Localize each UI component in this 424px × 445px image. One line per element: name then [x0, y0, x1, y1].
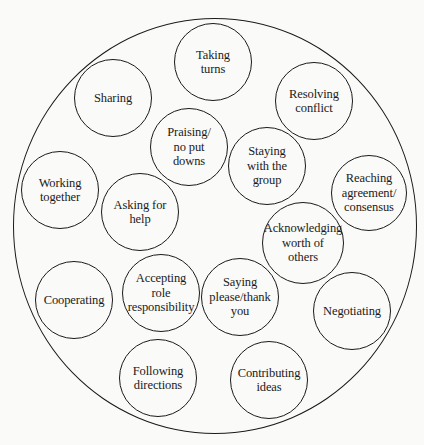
bubble-label: Cooperating — [44, 293, 105, 308]
bubble-label: Following directions — [133, 364, 184, 393]
bubble-following-directions: Following directions — [119, 339, 197, 417]
bubble-accepting-role: Accepting role responsibility — [122, 254, 200, 332]
bubble-label: Praising/ no put downs — [167, 125, 211, 169]
bubble-label: Contributing ideas — [238, 366, 301, 395]
bubble-saying-please: Saying please/thank you — [201, 258, 279, 336]
bubble-taking-turns: Taking turns — [174, 23, 252, 101]
bubble-label: Resolving conflict — [289, 87, 339, 116]
bubble-praising: Praising/ no put downs — [150, 108, 228, 186]
bubble-label: Taking turns — [196, 48, 230, 77]
bubble-asking-for-help: Asking for help — [101, 173, 179, 251]
bubble-acknowledging-worth: Acknowledging worth of others — [262, 202, 344, 284]
social-skills-diagram: Taking turnsSharingResolving conflictPra… — [0, 0, 424, 445]
bubble-label: Sharing — [94, 91, 132, 106]
bubble-label: Asking for help — [114, 198, 167, 227]
bubble-resolving-conflict: Resolving conflict — [275, 62, 353, 140]
bubble-negotiating: Negotiating — [313, 272, 391, 350]
bubble-label: Acknowledging worth of others — [264, 221, 343, 265]
bubble-label: Staying with the group — [247, 144, 287, 188]
bubble-label: Negotiating — [323, 304, 381, 319]
bubble-label: Saying please/thank you — [209, 275, 270, 319]
bubble-staying-with-group: Staying with the group — [228, 127, 306, 205]
bubble-label: Reaching agreement/ consensus — [342, 171, 397, 215]
bubble-contributing-ideas: Contributing ideas — [230, 341, 308, 419]
bubble-working-together: Working together — [21, 151, 99, 229]
bubble-sharing: Sharing — [74, 59, 152, 137]
bubble-label: Working together — [39, 176, 82, 205]
bubble-cooperating: Cooperating — [35, 261, 113, 339]
bubble-label: Accepting role responsibility — [128, 271, 195, 315]
bubble-reaching-agreement: Reaching agreement/ consensus — [331, 155, 407, 231]
